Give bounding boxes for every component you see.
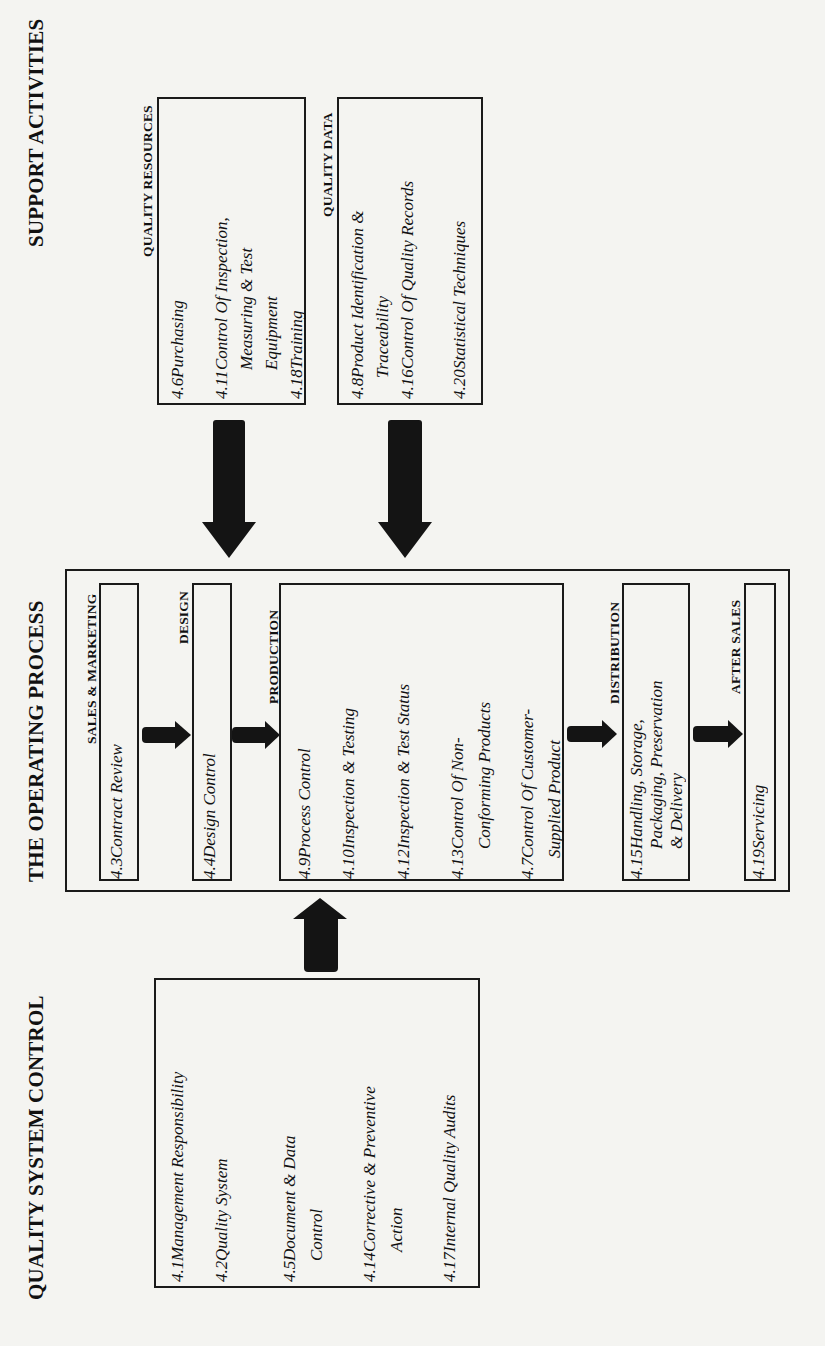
quality-data-box: 4.8 Product Identification & Traceabilit…: [337, 97, 483, 405]
list-item: 4.12 Inspection & Test Status: [390, 585, 434, 879]
list-item: 4.1 Management Responsibility: [164, 980, 208, 1282]
design-box: 4.4 Design Control: [192, 583, 232, 881]
heading-support-activities: SUPPORT ACTIVITIES: [24, 5, 49, 247]
list-item: 4.5 Document & Data Control: [276, 980, 330, 1282]
list-item: 4.16 Control Of Quality Records: [395, 99, 439, 399]
list-item: 4.14 Corrective & Preventive Action: [356, 980, 410, 1282]
quality-resources-list: 4.6 Purchasing 4.11 Control Of Inspectio…: [165, 99, 301, 399]
after-sales-box: 4.19 Servicing: [744, 583, 776, 881]
label-distribution: DISTRIBUTION: [607, 584, 623, 704]
list-item: 4.10 Inspection & Testing: [335, 585, 379, 879]
quality-system-control-box: 4.1 Management Responsibility 4.2 Qualit…: [154, 978, 480, 1288]
label-after-sales: AFTER SALES: [728, 584, 744, 694]
list-item: 4.2 Quality System: [208, 980, 252, 1282]
list-item: 4.17 Internal Quality Audits: [436, 980, 480, 1282]
after-sales-list: 4.19 Servicing: [749, 585, 773, 879]
production-list: 4.9 Process Control 4.10 Inspection & Te…: [291, 585, 559, 879]
distribution-list: 4.15 Handling, Storage, Packaging, Prese…: [627, 585, 687, 879]
label-design: DESIGN: [176, 584, 192, 644]
list-item: 4.15 Handling, Storage, Packaging, Prese…: [627, 585, 687, 879]
list-item: 4.13 Control Of Non- Conforming Products: [444, 585, 498, 879]
label-quality-resources: QUALITY RESOURCES: [140, 97, 156, 257]
label-sales-marketing: SALES & MARKETING: [84, 584, 100, 744]
list-item: 4.20 Statistical Techniques: [447, 99, 491, 399]
quality-control-list: 4.1 Management Responsibility 4.2 Qualit…: [164, 980, 474, 1282]
design-list: 4.4 Design Control: [200, 585, 228, 879]
label-quality-data: QUALITY DATA: [320, 97, 336, 217]
heading-quality-system-control: QUALITY SYSTEM CONTROL: [24, 1000, 49, 1300]
list-item: 4.11 Control Of Inspection, Measuring & …: [209, 99, 284, 399]
list-item: 4.9 Process Control: [291, 585, 335, 879]
sales-marketing-box: 4.3 Contract Review: [99, 583, 139, 881]
list-item: 4.8 Product Identification & Traceabilit…: [345, 99, 395, 399]
distribution-box: 4.15 Handling, Storage, Packaging, Prese…: [622, 583, 690, 881]
sales-list: 4.3 Contract Review: [107, 585, 135, 879]
list-item: 4.7 Control Of Customer- Supplied Produc…: [514, 585, 568, 879]
heading-operating-process: THE OPERATING PROCESS: [24, 570, 49, 882]
list-item: 4.19 Servicing: [749, 585, 793, 879]
production-box: 4.9 Process Control 4.10 Inspection & Te…: [279, 583, 564, 881]
quality-resources-box: 4.6 Purchasing 4.11 Control Of Inspectio…: [157, 97, 306, 405]
quality-data-list: 4.8 Product Identification & Traceabilit…: [345, 99, 479, 399]
list-item: 4.6 Purchasing: [165, 99, 209, 399]
